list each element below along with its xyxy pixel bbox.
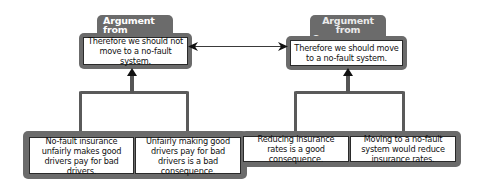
left-connector-frame <box>79 91 189 135</box>
right-conclusion-box[interactable]: Therefore we should move to a no-fault s… <box>290 40 403 66</box>
right-support-arrowhead-icon <box>343 68 353 76</box>
left-premise-1[interactable]: No-fault insurance unfairly makes good d… <box>29 137 134 174</box>
conflict-arrow-line <box>194 46 284 47</box>
left-conclusion-box[interactable]: Therefore we should not move to a no-fau… <box>83 37 188 65</box>
arrowhead-left-icon <box>188 42 198 51</box>
arrowhead-right-icon <box>278 42 288 51</box>
right-connector-frame <box>294 91 405 133</box>
left-premise-2[interactable]: Unfairly making good drivers pay for bad… <box>135 137 241 174</box>
right-premise-1[interactable]: Reducing insurance rates is a good conse… <box>243 136 349 162</box>
right-premise-2[interactable]: Moving to a no-fault system would reduce… <box>350 136 456 162</box>
left-support-arrowhead-icon <box>127 68 137 76</box>
